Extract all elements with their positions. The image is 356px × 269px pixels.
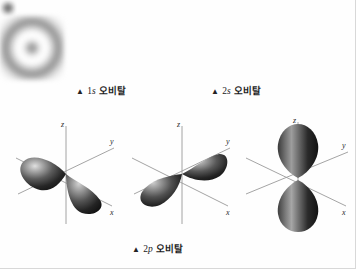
axis-label-x: x bbox=[225, 208, 230, 217]
axis-label-y: y bbox=[225, 137, 230, 146]
lobe-z-positive bbox=[278, 124, 319, 178]
triangle-marker-icon: ▲ bbox=[132, 246, 140, 254]
triangle-marker-icon: ▲ bbox=[76, 88, 84, 96]
orbital-2py: y x z bbox=[126, 118, 238, 230]
caption-1s-label: 오비탈 bbox=[99, 83, 127, 97]
triangle-marker-icon: ▲ bbox=[211, 88, 219, 96]
orbital-2pz: y x z bbox=[242, 114, 354, 226]
lobe-pair-x bbox=[20, 158, 101, 215]
caption-1s-quantum: 1s bbox=[87, 86, 96, 96]
lobe-x-negative bbox=[20, 158, 66, 191]
orbital-figure: ▲ 1s 오비탈 ▲ 2s 오비탈 bbox=[0, 0, 356, 269]
orbital-1s-cloud bbox=[0, 0, 16, 16]
caption-2p-quantum: 2p bbox=[143, 244, 153, 254]
axis-label-z: z bbox=[60, 120, 65, 129]
caption-2p: ▲ 2p 오비탈 bbox=[132, 241, 184, 255]
orbital-2px: y x z bbox=[10, 118, 122, 230]
caption-2s-quantum: 2s bbox=[222, 86, 231, 96]
lobe-y-negative bbox=[140, 174, 182, 207]
axis-label-x: x bbox=[109, 208, 114, 217]
axis-label-z: z bbox=[292, 116, 297, 125]
axis-label-y: y bbox=[109, 137, 114, 146]
lobe-y-positive bbox=[182, 154, 227, 181]
caption-2p-label: 오비탈 bbox=[156, 241, 184, 255]
axis-label-z: z bbox=[176, 120, 181, 129]
axis-label-y: y bbox=[341, 141, 346, 150]
lobe-z-negative bbox=[278, 180, 319, 232]
orbital-2s-cloud bbox=[0, 16, 64, 80]
caption-1s: ▲ 1s 오비탈 bbox=[76, 83, 127, 97]
lobe-x-positive bbox=[66, 174, 102, 214]
caption-2s-label: 오비탈 bbox=[234, 83, 262, 97]
caption-2s: ▲ 2s 오비탈 bbox=[211, 83, 262, 97]
axis-label-x: x bbox=[341, 208, 346, 217]
